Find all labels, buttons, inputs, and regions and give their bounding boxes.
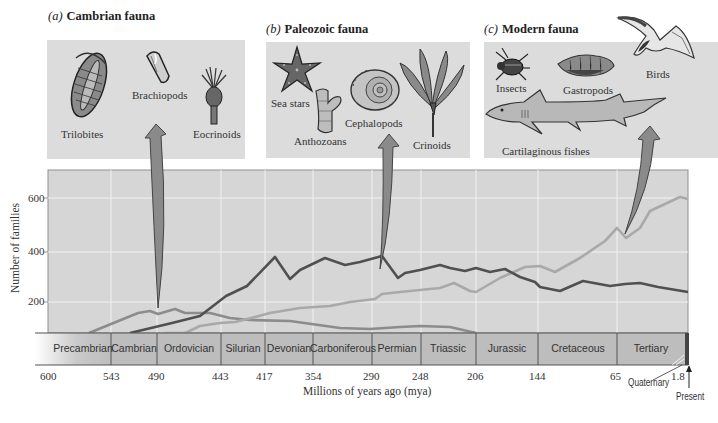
- quaternary-segment: [685, 333, 689, 365]
- present-label: Present: [676, 391, 704, 402]
- period-cambrian: Cambrian: [111, 342, 157, 354]
- geologic-period-band: Precambrian Cambrian Ordovician Silurian…: [35, 333, 689, 365]
- period-jurassic: Jurassic: [488, 342, 527, 354]
- y-tick-600: 600: [28, 192, 45, 204]
- x-tick-354: 354: [305, 370, 322, 382]
- period-silurian: Silurian: [225, 342, 260, 354]
- x-tick-206: 206: [467, 370, 484, 382]
- x-tick-543: 543: [103, 370, 120, 382]
- x-axis-title: Millions of years ago (mya): [303, 385, 431, 397]
- x-tick-248: 248: [412, 370, 429, 382]
- period-devonian: Devonian: [267, 342, 312, 354]
- x-tick-490: 490: [148, 370, 165, 382]
- x-tick-600: 600: [40, 370, 57, 382]
- present-arrowhead-icon: [686, 365, 692, 372]
- x-tick-417: 417: [256, 370, 273, 382]
- period-carboniferous: Carboniferous: [310, 342, 376, 354]
- y-tick-200: 200: [28, 295, 45, 307]
- x-tick-290: 290: [363, 370, 380, 382]
- x-tick-65: 65: [610, 370, 621, 382]
- period-ordovician: Ordovician: [164, 342, 214, 354]
- y-tick-400: 400: [28, 245, 45, 257]
- x-tick-443: 443: [212, 370, 229, 382]
- x-tick-144: 144: [529, 370, 546, 382]
- period-precambrian: Precambrian: [53, 342, 113, 354]
- period-triassic: Triassic: [430, 342, 466, 354]
- period-tertiary: Tertiary: [634, 342, 669, 354]
- period-cretaceous: Cretaceous: [551, 342, 605, 354]
- diversity-chart: Precambrian Cambrian Ordovician Silurian…: [0, 0, 718, 423]
- x-tick-1-8: 1.8: [671, 370, 685, 382]
- period-permian: Permian: [377, 342, 416, 354]
- quaternary-label: Quaternary: [628, 377, 669, 388]
- y-axis-title: Number of families: [9, 193, 21, 303]
